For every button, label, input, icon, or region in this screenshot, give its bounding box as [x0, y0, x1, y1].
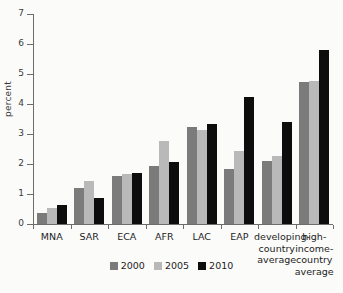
- x-axis-tick: [71, 225, 72, 229]
- legend-label: 2000: [121, 261, 145, 271]
- y-axis-tick-label: 1: [18, 188, 24, 199]
- chart-legend: 200020052010: [0, 261, 343, 271]
- legend-swatch-icon: [154, 262, 162, 270]
- y-axis-tick-label: 5: [18, 68, 24, 79]
- legend-label: 2010: [209, 261, 233, 271]
- y-axis-tick-label: 0: [18, 218, 24, 229]
- x-axis-tick: [33, 225, 34, 229]
- bar-2010: [57, 205, 67, 224]
- legend-item: 2010: [198, 261, 233, 271]
- bar-2010: [169, 162, 179, 224]
- bar-2010: [244, 97, 254, 225]
- bar-2005: [159, 141, 169, 224]
- bar-2000: [149, 166, 159, 225]
- bar-group: [74, 14, 104, 224]
- bar-2000: [224, 169, 234, 224]
- legend-swatch-icon: [110, 262, 118, 270]
- bar-2010: [319, 50, 329, 224]
- bar-2000: [187, 127, 197, 225]
- legend-item: 2005: [154, 261, 189, 271]
- bar-group: [149, 14, 179, 224]
- x-axis-tick: [333, 225, 334, 229]
- x-axis-tick: [258, 225, 259, 229]
- bar-2000: [74, 188, 84, 224]
- legend-item: 2000: [110, 261, 145, 271]
- y-axis-tick-label: 7: [18, 8, 24, 19]
- x-axis-tick: [146, 225, 147, 229]
- bar-2000: [262, 161, 272, 224]
- y-axis-tick-label: 6: [18, 38, 24, 49]
- x-axis-tick: [296, 225, 297, 229]
- bar-group: [262, 14, 292, 224]
- y-axis-tick-label: 2: [18, 158, 24, 169]
- plot-area: [33, 14, 333, 224]
- x-axis-tick: [108, 225, 109, 229]
- bar-2010: [132, 173, 142, 224]
- bar-chart: percent 01234567 MNASARECAAFRLACEAPdevel…: [0, 0, 343, 293]
- y-axis-title: percent: [3, 73, 13, 125]
- x-axis-tick: [221, 225, 222, 229]
- bar-2005: [272, 156, 282, 224]
- bar-group: [112, 14, 142, 224]
- bar-2000: [112, 176, 122, 224]
- y-axis-tick-label: 4: [18, 98, 24, 109]
- bar-2005: [234, 151, 244, 224]
- bar-2010: [94, 198, 104, 224]
- bar-group: [37, 14, 67, 224]
- x-axis-tick: [183, 225, 184, 229]
- bar-2010: [282, 122, 292, 224]
- bar-2005: [122, 174, 132, 224]
- bar-2005: [84, 181, 94, 224]
- bar-2000: [299, 82, 309, 224]
- legend-label: 2005: [165, 261, 189, 271]
- bar-2010: [207, 124, 217, 225]
- bar-group: [224, 14, 254, 224]
- bar-2000: [37, 213, 47, 224]
- bar-2005: [309, 81, 319, 224]
- bar-2005: [197, 130, 207, 224]
- bar-group: [187, 14, 217, 224]
- bar-2005: [47, 208, 57, 225]
- bar-group: [299, 14, 329, 224]
- y-axis-tick-label: 3: [18, 128, 24, 139]
- legend-swatch-icon: [198, 262, 206, 270]
